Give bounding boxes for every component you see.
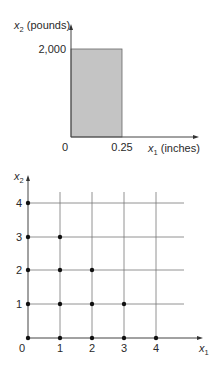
- x-tick-4: 4: [153, 342, 159, 354]
- y-tick-1: 1: [16, 298, 22, 310]
- origin-label: 0: [19, 342, 25, 354]
- bottom-y-arrow-icon: [26, 175, 30, 181]
- x-tick-1: 1: [57, 342, 63, 354]
- top-x-label: x1 (inches): [147, 142, 200, 157]
- y-tick-2: 2: [16, 264, 22, 276]
- top-x-arrow-icon: [193, 135, 199, 139]
- bottom-x-arrow-icon: [197, 336, 203, 340]
- y-tick-3: 3: [16, 231, 22, 243]
- feasible-region: [71, 49, 122, 137]
- top-chart: x2 (pounds) 2,000 0 0.25 x1 (inches): [13, 19, 200, 157]
- top-x-tick-025: 0.25: [111, 141, 132, 153]
- bottom-chart: x2 4 3 2 1 0 1 2 3 4 x1: [13, 170, 209, 357]
- top-y-label: x2 (pounds): [13, 19, 70, 34]
- bottom-x-label: x1: [198, 342, 209, 357]
- x-tick-3: 3: [121, 342, 127, 354]
- x-tick-2: 2: [89, 342, 95, 354]
- grid-vertical: [60, 192, 156, 338]
- grid-horizontal: [28, 203, 184, 304]
- top-x-tick-0: 0: [62, 141, 68, 153]
- y-tick-4: 4: [16, 197, 22, 209]
- bottom-y-label: x2: [13, 170, 24, 185]
- figure: x2 (pounds) 2,000 0 0.25 x1 (inches): [0, 0, 214, 377]
- top-y-tick-2000: 2,000: [38, 43, 66, 55]
